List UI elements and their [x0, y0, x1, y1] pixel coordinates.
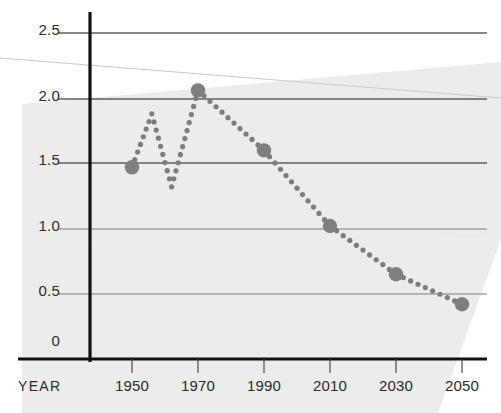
series-dot: [187, 120, 192, 125]
y-tick-label-2-0: 2.0: [0, 87, 60, 104]
series-dot: [182, 136, 187, 141]
data-point-marker[interactable]: [125, 160, 139, 174]
series-dot: [437, 292, 442, 297]
series-dot: [380, 262, 385, 267]
data-point-marker[interactable]: [323, 219, 337, 233]
series-dot: [207, 99, 212, 104]
series-dot: [141, 134, 146, 139]
series-dot: [219, 110, 224, 115]
series-dot: [225, 115, 230, 120]
series-dot: [189, 112, 194, 117]
series-dot: [415, 282, 420, 287]
series-dot: [300, 192, 305, 197]
series-dot: [294, 186, 299, 191]
series-dot: [283, 173, 288, 178]
series-dot: [272, 160, 277, 165]
y-tick-label-0-5: 0.5: [0, 282, 60, 299]
series-dot: [156, 136, 161, 141]
series-dot: [151, 119, 156, 124]
series-dot: [289, 179, 294, 184]
series-dot: [249, 137, 254, 142]
series-dot: [231, 120, 236, 125]
series-dot: [408, 278, 413, 283]
series-dot: [311, 204, 316, 209]
chart-container: 2.5 2.0 1.5 1.0 0.5 0 1950 1970 1990 201…: [0, 0, 501, 413]
series-dot: [213, 104, 218, 109]
series-dot: [154, 127, 159, 132]
plot-area: [0, 0, 501, 413]
data-series-fertility: [125, 83, 469, 311]
series-dot: [146, 119, 151, 124]
data-point-marker[interactable]: [191, 83, 205, 97]
series-dot: [278, 167, 283, 172]
series-dot: [430, 288, 435, 293]
y-tick-label-0: 0: [0, 332, 60, 349]
axis-lines: [18, 12, 487, 362]
series-dot: [341, 233, 346, 238]
series-dot: [180, 144, 185, 149]
series-dot: [169, 184, 174, 189]
series-dot: [191, 104, 196, 109]
y-tick-label-2-5: 2.5: [0, 21, 60, 38]
series-dot: [173, 168, 178, 173]
x-tick-label-2050: 2050: [427, 377, 497, 394]
series-dot: [176, 160, 181, 165]
x-tick-label-1970: 1970: [163, 377, 233, 394]
series-dot: [360, 248, 365, 253]
x-tick-label-1990: 1990: [229, 377, 299, 394]
data-point-marker[interactable]: [389, 267, 403, 281]
series-dot: [243, 131, 248, 136]
x-tick-label-2030: 2030: [361, 377, 431, 394]
series-dot: [171, 176, 176, 181]
x-axis-ticks: [132, 359, 462, 373]
series-dot: [165, 168, 170, 173]
series-dot: [367, 252, 372, 257]
x-axis-title: YEAR: [18, 378, 61, 394]
series-dot: [138, 142, 143, 147]
series-dot: [144, 127, 149, 132]
x-tick-label-2010: 2010: [295, 377, 365, 394]
x-tick-label-1950: 1950: [97, 377, 167, 394]
series-dot: [445, 295, 450, 300]
data-point-marker[interactable]: [455, 297, 469, 311]
y-tick-label-1-5: 1.5: [0, 151, 60, 168]
series-dot: [305, 198, 310, 203]
data-point-marker[interactable]: [257, 143, 271, 157]
series-dot: [374, 257, 379, 262]
series-dot: [316, 211, 321, 216]
series-dot: [160, 152, 165, 157]
series-dot: [149, 111, 154, 116]
series-dot: [347, 238, 352, 243]
series-dot: [423, 285, 428, 290]
series-dot: [354, 243, 359, 248]
series-dot: [158, 144, 163, 149]
y-tick-label-1-0: 1.0: [0, 217, 60, 234]
series-dot: [184, 128, 189, 133]
series-dot: [135, 149, 140, 154]
series-dot: [162, 160, 167, 165]
series-dot: [237, 126, 242, 131]
series-dot: [178, 152, 183, 157]
